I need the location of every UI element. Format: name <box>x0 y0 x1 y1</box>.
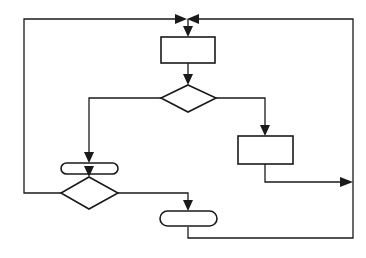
edge-merge-to-process-1 <box>183 19 193 37</box>
decision-diamond-1 <box>161 85 216 112</box>
arrowhead-down-icon <box>183 200 193 211</box>
process-box-1 <box>161 37 215 63</box>
terminal-rounded-box-2 <box>160 211 217 226</box>
arrowhead-down-icon <box>183 74 193 85</box>
arrowhead-down-icon <box>183 26 193 37</box>
edge-process-1-to-decision-1 <box>183 63 193 85</box>
arrowhead-right-icon <box>175 14 187 24</box>
arrowhead-left-icon <box>187 14 199 24</box>
process-box-2 <box>238 136 293 164</box>
edge-decision-1-to-process-2 <box>216 98 270 136</box>
edge-decision-1-to-terminal-1 <box>84 98 161 163</box>
arrowhead-right-icon <box>340 177 353 187</box>
edge-decision-2-to-terminal-2 <box>118 193 193 211</box>
flowchart-canvas <box>0 0 366 258</box>
arrowhead-down-icon <box>260 125 270 136</box>
edge-process-2-to-right-rail <box>265 164 353 187</box>
arrowhead-down-icon <box>84 152 94 163</box>
decision-diamond-2 <box>61 177 118 209</box>
